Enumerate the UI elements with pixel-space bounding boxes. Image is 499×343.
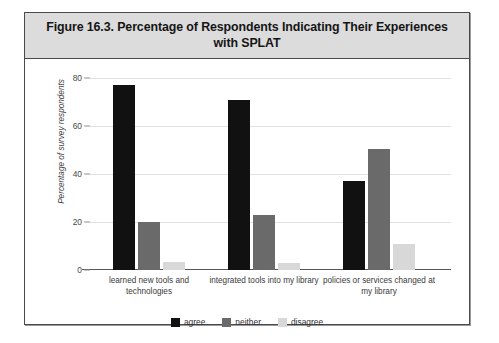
bar-disagree (278, 263, 300, 270)
bar-neither (368, 149, 390, 270)
bar-agree (113, 85, 135, 270)
legend-swatch-icon (222, 318, 231, 327)
legend-item-disagree: disagree (278, 317, 323, 327)
y-axis-tick-label: 60 (73, 121, 82, 131)
legend-swatch-icon (171, 318, 180, 327)
y-axis-label: Percentage of survey respondents (57, 62, 66, 222)
x-axis-category-label: policies or services changed at my libra… (320, 276, 438, 297)
bar-agree (228, 100, 250, 270)
page-title: Figure 16.3. Percentage of Respondents I… (39, 20, 455, 50)
legend-label: agree (184, 317, 205, 327)
bar-neither (138, 222, 160, 270)
y-axis-tick (84, 174, 90, 175)
legend-label: neither (235, 317, 261, 327)
gridline (90, 126, 451, 127)
x-axis-category-label: integrated tools into my library (205, 276, 323, 287)
bar-disagree (393, 244, 415, 270)
bar-neither (253, 215, 275, 270)
y-axis-tick-label: 80 (73, 73, 82, 83)
legend-item-agree: agree (171, 317, 205, 327)
y-axis-tick-label: 20 (73, 217, 82, 227)
y-axis-tick-label: 0 (77, 265, 82, 275)
y-axis-tick (84, 126, 90, 127)
gridline (90, 174, 451, 175)
figure-title-band: Figure 16.3. Percentage of Respondents I… (25, 13, 469, 59)
legend-label: disagree (291, 317, 323, 327)
gridline (90, 78, 451, 79)
x-axis-category-label: learned new tools and technologies (90, 276, 208, 297)
y-axis-tick (84, 222, 90, 223)
y-axis-tick (84, 270, 90, 271)
legend-swatch-icon (278, 318, 287, 327)
y-axis-tick-label: 40 (73, 169, 82, 179)
figure-frame: Figure 16.3. Percentage of Respondents I… (24, 12, 470, 325)
y-axis-tick (84, 78, 90, 79)
bar-disagree (163, 262, 185, 270)
legend-item-neither: neither (222, 317, 261, 327)
plot-area: 020406080learned new tools and technolog… (90, 78, 451, 270)
chart-legend: agreeneitherdisagree (25, 317, 469, 327)
bar-agree (343, 181, 365, 270)
chart-body: Percentage of survey respondents 0204060… (25, 59, 469, 324)
